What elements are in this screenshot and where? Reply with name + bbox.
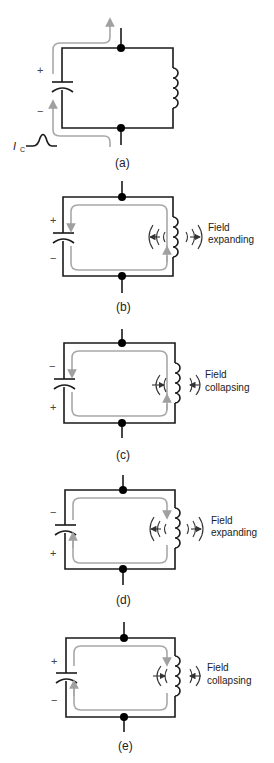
current-flow-arrow xyxy=(71,205,167,254)
inductor-icon xyxy=(175,508,180,548)
panel-label: (d) xyxy=(116,593,131,607)
inductor-icon xyxy=(173,217,178,257)
svg-text:+: + xyxy=(50,547,56,559)
svg-text:−: − xyxy=(50,506,56,518)
panel-label: (b) xyxy=(116,300,131,314)
magnetic-field-collapsing-icon xyxy=(152,375,200,395)
panel-label: (e) xyxy=(118,739,133,753)
svg-text:−: − xyxy=(49,360,55,372)
panel-c: − + Field collapsing (c) xyxy=(49,329,249,462)
field-state-label: expanding xyxy=(208,234,254,245)
panel-e: + − Field collapsing (e) xyxy=(51,622,251,753)
pulse-waveform-icon xyxy=(26,135,57,147)
svg-text:−: − xyxy=(51,694,57,706)
capacitor-polarity-bottom: − xyxy=(37,105,43,117)
current-flow-arrow xyxy=(74,646,167,666)
panel-d: − + Field expanding (d) xyxy=(50,475,257,607)
node-dot xyxy=(117,44,125,52)
lc-tank-circuit-diagram: + − I C (a) + − xyxy=(0,0,274,763)
current-pulse-label: I C xyxy=(13,135,57,154)
field-label: Field xyxy=(205,369,227,380)
inductor-icon xyxy=(173,68,178,108)
svg-text:+: + xyxy=(51,655,57,667)
field-label: Field xyxy=(211,515,233,526)
inductor-icon xyxy=(175,656,180,696)
svg-text:C: C xyxy=(20,146,25,153)
panel-label: (c) xyxy=(116,448,130,462)
inductor-icon xyxy=(175,363,180,403)
field-state-label: collapsing xyxy=(207,675,251,686)
field-state-label: collapsing xyxy=(205,382,249,393)
svg-text:I: I xyxy=(13,140,16,152)
field-state-label: expanding xyxy=(211,527,257,538)
current-flow-arrow xyxy=(72,351,167,400)
svg-text:+: + xyxy=(50,214,56,226)
panel-label: (a) xyxy=(115,156,130,170)
svg-text:−: − xyxy=(50,252,56,264)
panel-a: + − I C (a) xyxy=(13,22,178,170)
current-flow-arrow xyxy=(71,246,167,270)
svg-text:+: + xyxy=(50,401,56,413)
current-flow-arrow xyxy=(73,498,167,520)
capacitor-polarity-top: + xyxy=(37,64,43,76)
node-dot xyxy=(117,124,125,132)
field-label: Field xyxy=(208,222,230,233)
panel-b: + − Field expanding (b) xyxy=(50,181,254,314)
field-label: Field xyxy=(207,662,229,673)
